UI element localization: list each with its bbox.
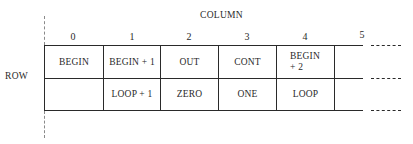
column-number-0: 0 <box>63 31 83 42</box>
cell-r0-c3: CONT <box>219 46 276 78</box>
axis-dashed-bottom <box>44 111 45 138</box>
cell-r1-c1: LOOP + 1 <box>104 79 160 110</box>
grid-col-line-5 <box>334 45 335 111</box>
cell-r0-c1: BEGIN + 1 <box>104 46 160 78</box>
grid-line-bottom <box>44 110 363 111</box>
column-number-2: 2 <box>179 31 199 42</box>
column-axis-title: COLUMN <box>200 10 280 20</box>
continuation-dashes-top <box>371 45 401 46</box>
cell-r1-c4: LOOP <box>277 79 334 110</box>
cell-r0-c4-line1: BEGIN <box>290 51 320 62</box>
column-number-1: 1 <box>122 31 142 42</box>
cell-r1-c3: ONE <box>219 79 276 110</box>
cell-r0-c4: BEGIN + 2 <box>277 46 334 78</box>
column-number-3: 3 <box>237 31 257 42</box>
cell-r0-c0: BEGIN <box>45 46 103 78</box>
cell-r0-c2: OUT <box>161 46 218 78</box>
row-axis-title: ROW <box>5 71 28 81</box>
cell-r0-c4-line2: + 2 <box>290 62 303 73</box>
continuation-dashes-middle <box>371 78 401 79</box>
column-number-5: 5 <box>352 29 372 40</box>
continuation-dashes-bottom <box>371 110 401 111</box>
column-number-4: 4 <box>295 31 315 42</box>
cell-r1-c2: ZERO <box>161 79 218 110</box>
axis-dashed-top <box>44 16 45 45</box>
cell-r1-c0 <box>45 79 103 110</box>
